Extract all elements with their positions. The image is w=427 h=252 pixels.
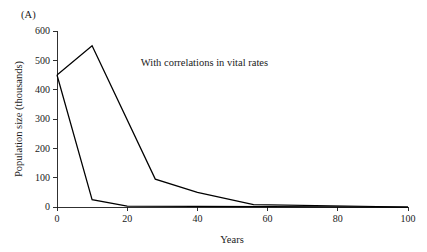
x-tick-label: 20	[122, 213, 132, 224]
y-tick-label: 500	[35, 55, 50, 66]
y-tick-labels: 0100200300400500600	[35, 25, 50, 212]
y-tick-label: 600	[35, 25, 50, 36]
x-tick-labels: 020406080100	[55, 213, 416, 224]
chart-annotations: With correlations in vital rates	[141, 57, 268, 68]
annotation-label: With correlations in vital rates	[141, 57, 268, 68]
data-series-group	[57, 46, 408, 207]
y-tick-label: 100	[35, 172, 50, 183]
series-lower-trajectory	[57, 75, 408, 207]
x-tick-label: 40	[192, 213, 202, 224]
x-axis-title: Years	[220, 234, 243, 245]
figure-panel: (A) 0100200300400500600 020406080100 Wit…	[0, 0, 427, 252]
y-tick-label: 200	[35, 143, 50, 154]
y-tick-label: 0	[45, 201, 50, 212]
x-tick-label: 0	[55, 213, 60, 224]
series-upper-trajectory	[57, 46, 408, 207]
line-chart: 0100200300400500600 020406080100 With co…	[0, 0, 427, 252]
y-tick-marks	[53, 31, 57, 207]
x-tick-label: 80	[333, 213, 343, 224]
y-tick-label: 400	[35, 84, 50, 95]
x-tick-marks	[57, 207, 408, 211]
y-tick-label: 300	[35, 113, 50, 124]
x-tick-label: 60	[263, 213, 273, 224]
x-tick-label: 100	[401, 213, 416, 224]
y-axis-title: Population size (thousands)	[13, 60, 25, 177]
